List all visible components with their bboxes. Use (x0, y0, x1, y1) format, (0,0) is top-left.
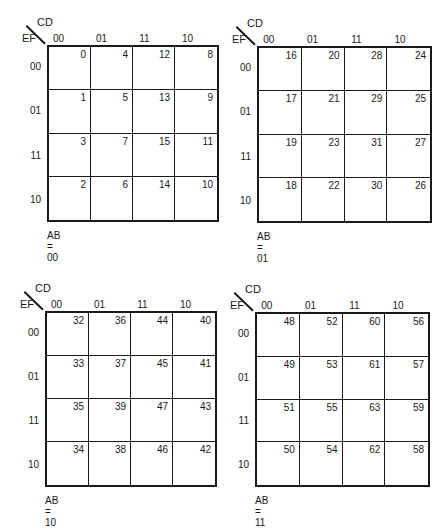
minterm-number: 30 (371, 180, 382, 191)
minterm-number: 60 (369, 316, 380, 327)
row-header: 00 (21, 61, 41, 72)
minterm-number: 28 (371, 50, 382, 61)
column-header: 01 (291, 34, 334, 45)
minterm-number: 0 (80, 49, 86, 60)
kmap-cell: 14 (133, 177, 175, 220)
kmap-cell: 24 (387, 48, 430, 91)
row-header: 10 (19, 459, 39, 470)
minterm-number: 32 (73, 315, 84, 326)
minterm-number: 52 (326, 316, 337, 327)
column-header: 01 (80, 33, 123, 44)
kmap-cell: 60 (343, 314, 386, 357)
minterm-number: 23 (328, 137, 339, 148)
minterm-number: 2 (80, 179, 86, 190)
row-header: 11 (19, 415, 39, 426)
kmap-cell: 49 (257, 357, 300, 400)
minterm-number: 10 (202, 179, 213, 190)
kmap-cell: 58 (385, 442, 428, 485)
minterm-number: 51 (284, 402, 295, 413)
kmap-cell: 35 (47, 399, 89, 442)
kmap-cell: 25 (387, 91, 430, 134)
column-header: 00 (35, 299, 78, 310)
minterm-number: 13 (159, 92, 170, 103)
kmap-cell: 37 (89, 356, 131, 399)
kmap-cell: 31 (345, 135, 388, 178)
minterm-number: 29 (371, 93, 382, 104)
kmap-cell: 17 (259, 91, 302, 134)
kmap-cell: 61 (343, 357, 386, 400)
kmap-cell: 52 (300, 314, 343, 357)
kmap-cell: 20 (302, 48, 345, 91)
kmap-cell: 5 (91, 90, 133, 133)
kmap-cell: 15 (133, 134, 175, 177)
kmap-cell: 40 (173, 313, 215, 356)
kmap-grid: 32364440333745413539474334384642 (45, 311, 217, 487)
minterm-number: 54 (326, 444, 337, 455)
row-header: 01 (229, 372, 249, 383)
column-header: 00 (37, 33, 80, 44)
row-header: 11 (229, 415, 249, 426)
kmap-cell: 1 (49, 90, 91, 133)
row-variable-label: EF (22, 32, 36, 44)
column-header: 10 (166, 33, 209, 44)
kmap-cell: 7 (91, 134, 133, 177)
kmap-cell: 16 (259, 48, 302, 91)
minterm-number: 17 (286, 93, 297, 104)
column-header: 11 (123, 33, 166, 44)
kmap-grid: 48526056495361575155635950546258 (255, 312, 430, 487)
kmap-cell: 6 (91, 177, 133, 220)
row-header: 01 (19, 371, 39, 382)
minterm-number: 45 (157, 358, 168, 369)
kmap-cell: 9 (175, 90, 217, 133)
minterm-number: 33 (73, 358, 84, 369)
minterm-number: 27 (415, 137, 426, 148)
minterm-number: 20 (328, 50, 339, 61)
minterm-number: 42 (200, 444, 211, 455)
column-variable-label: CD (37, 16, 53, 28)
kmap-cell: 59 (385, 400, 428, 443)
kmap-cell: 39 (89, 399, 131, 442)
minterm-number: 39 (115, 401, 126, 412)
kmap-cell: 23 (302, 135, 345, 178)
kmap-cell: 51 (257, 400, 300, 443)
row-header: 01 (231, 106, 251, 117)
kmap-cell: 41 (173, 356, 215, 399)
kmap-cell: 63 (343, 400, 386, 443)
kmap-cell: 44 (131, 313, 173, 356)
minterm-number: 15 (159, 136, 170, 147)
column-header: 01 (78, 299, 121, 310)
minterm-number: 12 (159, 49, 170, 60)
column-header: 11 (333, 300, 376, 311)
column-header: 01 (289, 300, 332, 311)
minterm-number: 50 (284, 444, 295, 455)
kmap-cell: 46 (131, 442, 173, 485)
column-variable-label: CD (245, 283, 261, 295)
row-header: 10 (229, 459, 249, 470)
minterm-number: 62 (369, 444, 380, 455)
kmap-cell: 34 (47, 442, 89, 485)
minterm-number: 31 (371, 137, 382, 148)
column-variable-label: CD (35, 282, 51, 294)
kmap-cell: 33 (47, 356, 89, 399)
minterm-number: 5 (122, 92, 128, 103)
row-header: 11 (21, 150, 41, 161)
map-caption: AB = 11 (255, 495, 268, 528)
kmap-cell: 45 (131, 356, 173, 399)
minterm-number: 35 (73, 401, 84, 412)
minterm-number: 38 (115, 444, 126, 455)
kmap-cell: 13 (133, 90, 175, 133)
minterm-number: 63 (369, 402, 380, 413)
minterm-number: 19 (286, 137, 297, 148)
map-caption: AB = 01 (257, 231, 270, 264)
kmap-cell: 32 (47, 313, 89, 356)
minterm-number: 26 (415, 180, 426, 191)
kmap-cell: 0 (49, 47, 91, 90)
kmap-cell: 38 (89, 442, 131, 485)
row-header: 01 (21, 105, 41, 116)
kmap-cell: 21 (302, 91, 345, 134)
minterm-number: 34 (73, 444, 84, 455)
minterm-number: 21 (328, 93, 339, 104)
minterm-number: 46 (157, 444, 168, 455)
minterm-number: 58 (413, 444, 424, 455)
kmap-cell: 56 (385, 314, 428, 357)
